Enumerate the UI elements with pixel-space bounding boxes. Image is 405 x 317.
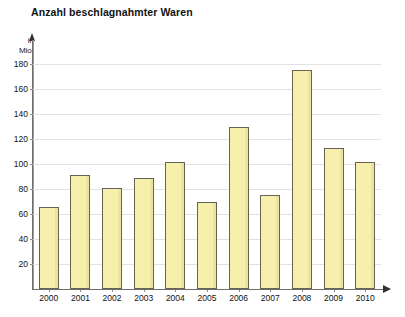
x-axis-tick-label: 2009 xyxy=(319,293,349,303)
bar xyxy=(134,178,154,289)
y-axis-tick-label: 80 xyxy=(4,184,28,194)
x-axis-line xyxy=(32,289,385,290)
y-axis-tick-mark xyxy=(30,89,33,90)
bar-shade xyxy=(86,176,89,288)
bar xyxy=(165,162,185,290)
x-axis-arrow-icon xyxy=(383,285,391,293)
y-axis-tick-mark xyxy=(30,139,33,140)
y-axis-tick-mark xyxy=(30,189,33,190)
x-axis-tick-label: 2001 xyxy=(65,293,95,303)
chart-title: Anzahl beschlagnahmter Waren xyxy=(31,6,193,18)
y-axis-tick-mark xyxy=(30,164,33,165)
y-axis-tick-label: 140 xyxy=(4,109,28,119)
bar-shade xyxy=(276,196,279,288)
bar-shade xyxy=(245,128,248,289)
x-axis-tick-label: 2000 xyxy=(34,293,64,303)
x-axis-tick-label: 2004 xyxy=(160,293,190,303)
y-axis-tick-mark xyxy=(30,214,33,215)
bar-shade xyxy=(55,208,58,289)
x-axis-tick-label: 2008 xyxy=(287,293,317,303)
gridline xyxy=(33,139,381,140)
bar xyxy=(197,202,217,290)
bar xyxy=(292,70,312,289)
x-axis-tick-label: 2007 xyxy=(255,293,285,303)
bar-shade xyxy=(118,189,121,288)
y-axis-tick-label: 40 xyxy=(4,234,28,244)
bar xyxy=(70,175,90,289)
y-axis-tick-label: 180 xyxy=(4,59,28,69)
y-axis-tick-label: 120 xyxy=(4,134,28,144)
bar-shade xyxy=(308,71,311,288)
gridline xyxy=(33,89,381,90)
x-axis-tick-label: 2010 xyxy=(350,293,380,303)
bar xyxy=(260,195,280,289)
x-axis-tick-label: 2005 xyxy=(192,293,222,303)
x-axis-tick-label: 2003 xyxy=(129,293,159,303)
bar-shade xyxy=(213,203,216,289)
bar xyxy=(324,148,344,289)
y-axis-tick-mark xyxy=(30,264,33,265)
bar-chart: Anzahl beschlagnahmter Waren in Mio. 204… xyxy=(0,0,405,317)
bar xyxy=(229,127,249,290)
y-axis-tick-mark xyxy=(30,114,33,115)
y-axis-tick-label: 160 xyxy=(4,84,28,94)
gridline xyxy=(33,64,381,65)
gridline xyxy=(33,114,381,115)
y-axis-unit-line-2: Mio. xyxy=(8,46,34,56)
y-axis-tick-label: 20 xyxy=(4,259,28,269)
y-axis-tick-mark xyxy=(30,64,33,65)
x-axis-tick-label: 2006 xyxy=(224,293,254,303)
bar xyxy=(102,188,122,289)
y-axis-tick-label: 60 xyxy=(4,209,28,219)
bar-shade xyxy=(150,179,153,288)
bar-shade xyxy=(181,163,184,289)
bar-shade xyxy=(340,149,343,288)
bar-shade xyxy=(371,163,374,289)
y-axis-tick-label: 100 xyxy=(4,159,28,169)
bar xyxy=(355,162,375,290)
y-axis-tick-mark xyxy=(30,239,33,240)
bar xyxy=(39,207,59,290)
x-axis-tick-label: 2002 xyxy=(97,293,127,303)
